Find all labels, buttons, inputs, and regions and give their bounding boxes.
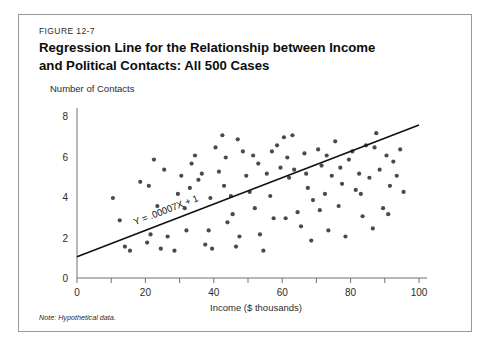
data-point [217, 170, 221, 174]
data-point [268, 194, 272, 198]
data-point [147, 184, 151, 188]
data-point [200, 172, 204, 176]
data-point [111, 196, 115, 200]
data-point [333, 139, 337, 143]
data-point [184, 228, 188, 232]
scatter-plot: 02040608010002468Income ($ thousands)Y =… [19, 15, 473, 333]
data-point [323, 192, 327, 196]
data-point [318, 208, 322, 212]
regression-line [77, 125, 419, 257]
data-point [306, 186, 310, 190]
data-point [299, 224, 303, 228]
data-point [275, 143, 279, 147]
x-tick-label: 60 [277, 287, 289, 298]
data-point [311, 198, 315, 202]
data-point [138, 180, 142, 184]
data-point [265, 172, 269, 176]
data-point [220, 133, 224, 137]
data-point [384, 153, 388, 157]
x-tick-label: 100 [411, 287, 428, 298]
data-point [210, 247, 214, 251]
data-point [237, 234, 241, 238]
data-point [188, 186, 192, 190]
data-point [152, 157, 156, 161]
data-point [261, 249, 265, 253]
data-point [284, 216, 288, 220]
data-point [207, 228, 211, 232]
data-point [371, 226, 375, 230]
data-point [295, 210, 299, 214]
data-point [159, 247, 163, 251]
data-point [196, 178, 200, 182]
data-point [347, 157, 351, 161]
data-point [282, 135, 286, 139]
data-point [222, 184, 226, 188]
data-point [270, 149, 274, 153]
data-point [241, 149, 245, 153]
data-point [330, 174, 334, 178]
data-point [278, 166, 282, 170]
data-point [231, 212, 235, 216]
data-point [162, 168, 166, 172]
x-tick-label: 40 [208, 287, 220, 298]
data-point [251, 153, 255, 157]
data-point [176, 192, 180, 196]
data-point [208, 196, 212, 200]
data-point [378, 168, 382, 172]
data-point [359, 192, 363, 196]
data-point [290, 133, 294, 137]
data-point [145, 240, 149, 244]
x-tick-label: 0 [74, 287, 80, 298]
data-point [354, 188, 358, 192]
data-point [304, 172, 308, 176]
data-point [325, 153, 329, 157]
data-point [372, 145, 376, 149]
y-tick-label: 4 [62, 192, 68, 203]
data-point [292, 168, 296, 172]
y-tick-label: 6 [62, 152, 68, 163]
data-point [337, 204, 341, 208]
y-tick-label: 0 [62, 273, 68, 284]
y-tick-label: 8 [62, 111, 68, 122]
data-point [391, 159, 395, 163]
data-point [395, 174, 399, 178]
data-point [360, 214, 364, 218]
data-point [326, 228, 330, 232]
figure-note: Note: Hypothetical data. [39, 313, 116, 322]
data-point [285, 155, 289, 159]
data-point [402, 190, 406, 194]
data-point [148, 232, 152, 236]
data-point [224, 155, 228, 159]
data-point [272, 216, 276, 220]
data-point [367, 176, 371, 180]
data-point [244, 174, 248, 178]
data-point [302, 151, 306, 155]
y-tick-label: 2 [62, 233, 68, 244]
data-point [225, 220, 229, 224]
data-point [338, 166, 342, 170]
figure-frame: FIGURE 12-7 Regression Line for the Rela… [18, 14, 472, 332]
data-point [258, 232, 262, 236]
data-point [309, 238, 313, 242]
x-tick-label: 20 [140, 287, 152, 298]
data-point [203, 242, 207, 246]
data-point [256, 161, 260, 165]
data-point [123, 245, 127, 249]
data-point [193, 153, 197, 157]
data-point [388, 184, 392, 188]
data-point [340, 182, 344, 186]
x-axis-title: Income ($ thousands) [210, 302, 302, 313]
data-point [357, 172, 361, 176]
data-point [179, 174, 183, 178]
data-point [166, 234, 170, 238]
data-point [128, 249, 132, 253]
data-point [316, 147, 320, 151]
data-point [253, 206, 257, 210]
data-point [398, 147, 402, 151]
data-point [213, 145, 217, 149]
data-point [236, 137, 240, 141]
data-point [172, 249, 176, 253]
data-point [189, 161, 193, 165]
data-point [381, 206, 385, 210]
data-point [343, 234, 347, 238]
